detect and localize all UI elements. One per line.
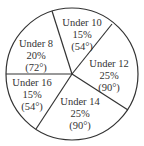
svg-text:Under 10: Under 10 — [62, 17, 101, 28]
svg-text:(54°): (54°) — [71, 41, 93, 53]
svg-text:Under 14: Under 14 — [60, 96, 100, 107]
svg-text:25%: 25% — [70, 108, 90, 119]
svg-text:(90°): (90°) — [69, 120, 91, 132]
svg-text:Under 16: Under 16 — [12, 77, 51, 88]
pie-chart: Under 10 15% (54°) Under 12 25% (90°) Un… — [0, 0, 144, 146]
svg-text:(72°): (72°) — [25, 62, 47, 74]
svg-text:Under 12: Under 12 — [89, 58, 128, 69]
svg-text:(54°): (54°) — [21, 101, 43, 113]
svg-text:25%: 25% — [99, 70, 119, 81]
svg-text:20%: 20% — [26, 50, 46, 61]
svg-text:15%: 15% — [22, 89, 42, 100]
svg-text:Under 8: Under 8 — [19, 38, 53, 49]
svg-text:(90°): (90°) — [98, 82, 120, 94]
svg-text:15%: 15% — [72, 29, 92, 40]
